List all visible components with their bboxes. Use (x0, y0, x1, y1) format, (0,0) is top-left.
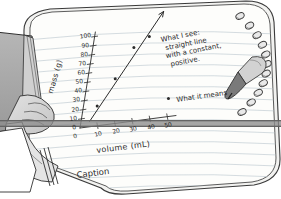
data-point (96, 105, 99, 108)
illustration-root: mass (g) volume (mL) What I see: straigh… (0, 0, 281, 199)
data-point (114, 77, 117, 80)
notebook-illustration (0, 0, 281, 199)
data-point (167, 97, 170, 100)
data-point (148, 35, 151, 38)
data-point (132, 46, 135, 49)
scan-band (0, 120, 281, 127)
